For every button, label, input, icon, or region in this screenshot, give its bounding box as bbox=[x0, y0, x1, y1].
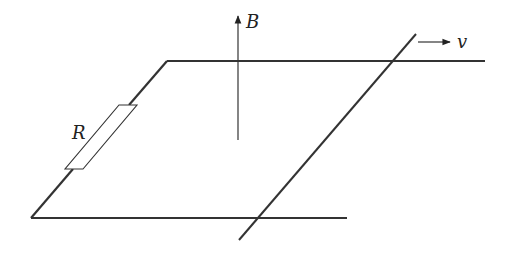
resistor-label: R bbox=[71, 122, 86, 143]
left-connector-lower bbox=[31, 169, 73, 218]
sliding-rod bbox=[239, 34, 416, 240]
circuit-diagram: B v R bbox=[0, 0, 510, 253]
magnetic-field-label: B bbox=[245, 11, 259, 32]
left-connector-upper bbox=[129, 61, 167, 105]
velocity-label: v bbox=[457, 31, 467, 52]
